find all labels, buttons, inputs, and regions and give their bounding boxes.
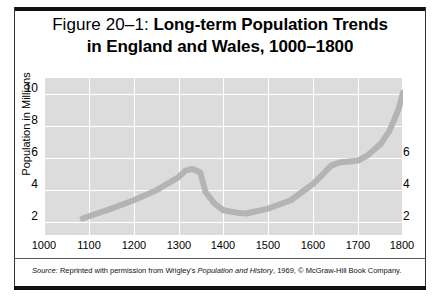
x-axis-tick-label: 1000 — [24, 240, 64, 251]
figure-title-main: Long-term Population Trends — [154, 15, 388, 34]
figure-bottom-rule — [14, 286, 426, 290]
source-work-title: Population and History — [198, 266, 273, 275]
figure-title-line-1: Figure 20–1: Long-term Population Trends — [14, 14, 426, 36]
x-axis-tick-label: 1800 — [382, 240, 422, 251]
y-axis-tick-label: 8 — [14, 114, 38, 126]
source-text-part-2: , 1969, © McGraw-Hill Book Company. — [273, 266, 401, 275]
figure-container: Figure 20–1: Long-term Population Trends… — [0, 0, 440, 298]
source-label: Source: — [32, 266, 58, 275]
figure-source-divider — [14, 258, 426, 259]
y-axis-tick-label-right: 6 — [403, 146, 427, 158]
y-axis-tick-label-right: 2 — [403, 210, 427, 222]
figure-title: Figure 20–1: Long-term Population Trends… — [14, 14, 426, 58]
source-text-part-1: Reprinted with permission from Wrigley's — [58, 266, 198, 275]
x-axis-tick-label: 1100 — [69, 240, 109, 251]
population-trend-line — [44, 78, 403, 235]
y-axis-tick-label: 10 — [14, 82, 38, 94]
figure-title-line-2: in England and Wales, 1000–1800 — [14, 36, 426, 58]
y-axis-tick-label: 2 — [14, 210, 38, 222]
x-axis-tick-label: 1500 — [248, 240, 288, 251]
figure-number-label: Figure 20–1: — [52, 15, 149, 34]
x-axis-tick-label: 1300 — [159, 240, 199, 251]
x-axis-tick-label: 1600 — [293, 240, 333, 251]
y-axis-tick-label: 4 — [14, 178, 38, 190]
plot-area — [44, 78, 403, 235]
y-axis-tick-label: 6 — [14, 146, 38, 158]
x-axis-tick-label: 1700 — [338, 240, 378, 251]
y-axis-tick-label-right: 4 — [403, 178, 427, 190]
figure-top-rule — [14, 7, 426, 11]
source-note: Source: Reprinted with permission from W… — [32, 266, 418, 277]
x-axis-tick-label: 1200 — [114, 240, 154, 251]
x-axis-tick-label: 1400 — [203, 240, 243, 251]
